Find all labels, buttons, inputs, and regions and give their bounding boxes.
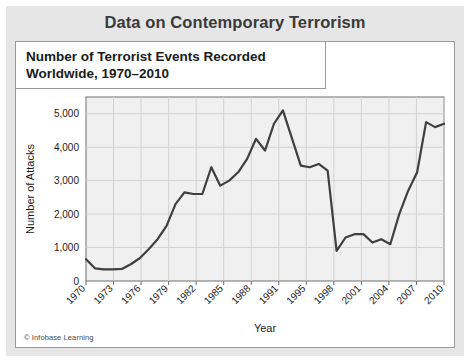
figure-heading: Number of Terrorist Events Recorded Worl… xyxy=(16,42,326,89)
figure-heading-line-1: Number of Terrorist Events Recorded xyxy=(26,48,325,65)
copyright-credit: © Infobase Learning xyxy=(24,333,94,342)
svg-text:1988: 1988 xyxy=(229,282,253,306)
banner: Data on Contemporary Terrorism xyxy=(6,6,464,39)
svg-text:2010: 2010 xyxy=(422,282,446,306)
page-title: Data on Contemporary Terrorism xyxy=(104,13,365,32)
svg-text:1976: 1976 xyxy=(119,282,143,306)
svg-text:2,000: 2,000 xyxy=(54,209,79,220)
y-axis-ticks: 01,0002,0003,0004,0005,000 xyxy=(54,108,79,286)
svg-text:1982: 1982 xyxy=(174,282,198,306)
svg-text:1998: 1998 xyxy=(312,282,336,306)
svg-text:3,000: 3,000 xyxy=(54,175,79,186)
chart-area: 01,0002,0003,0004,0005,000 1970197319761… xyxy=(16,89,454,347)
x-axis-title: Year xyxy=(254,322,277,334)
svg-text:2004: 2004 xyxy=(367,282,391,306)
y-axis-title: Number of Attacks xyxy=(24,144,36,234)
svg-text:1979: 1979 xyxy=(147,282,171,306)
svg-text:4,000: 4,000 xyxy=(54,142,79,153)
plot-background xyxy=(86,97,444,281)
svg-text:1973: 1973 xyxy=(91,282,115,306)
svg-text:1,000: 1,000 xyxy=(54,242,79,253)
svg-text:2001: 2001 xyxy=(339,282,363,306)
x-axis-ticks: 1970197319761979198219851988199119951998… xyxy=(64,281,446,306)
svg-text:1970: 1970 xyxy=(64,282,88,306)
svg-text:1991: 1991 xyxy=(257,282,281,306)
figure-card: Number of Terrorist Events Recorded Worl… xyxy=(15,41,455,348)
line-chart: 01,0002,0003,0004,0005,000 1970197319761… xyxy=(16,89,454,347)
svg-text:2007: 2007 xyxy=(394,282,418,306)
figure-heading-line-2: Worldwide, 1970–2010 xyxy=(26,65,325,82)
svg-text:5,000: 5,000 xyxy=(54,108,79,119)
figure-page: Data on Contemporary Terrorism Number of… xyxy=(0,0,470,362)
svg-text:1985: 1985 xyxy=(202,282,226,306)
svg-text:1995: 1995 xyxy=(284,282,308,306)
